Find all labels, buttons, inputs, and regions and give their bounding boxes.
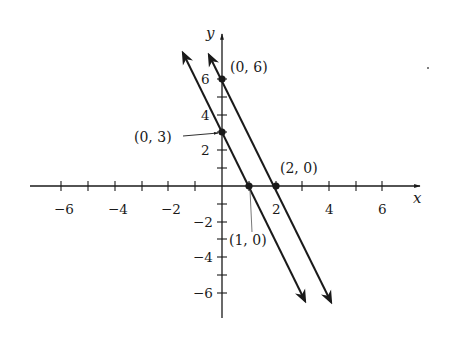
leader-arrow-0-3 bbox=[183, 133, 218, 136]
x-tick-label: 2 bbox=[272, 201, 281, 217]
y-tick-label: −4 bbox=[193, 249, 213, 265]
coordinate-plot: −6 −4 −2 2 4 6 x 6 4 2 −2 −4 −6 y bbox=[0, 0, 449, 340]
line-y-eq-neg3x-plus-6 bbox=[209, 55, 331, 302]
leader-line-1-0 bbox=[250, 190, 252, 232]
y-axis-label: y bbox=[205, 24, 215, 42]
point-label-1-0: (1, 0) bbox=[229, 232, 267, 248]
x-axis: −6 −4 −2 2 4 6 x bbox=[30, 181, 422, 217]
point-label-0-3: (0, 3) bbox=[134, 129, 172, 145]
speck-mark bbox=[427, 67, 429, 69]
point-label-0-6: (0, 6) bbox=[230, 59, 268, 75]
point-label-2-0: (2, 0) bbox=[280, 160, 318, 176]
x-tick-label: −4 bbox=[108, 201, 128, 217]
y-axis: 6 4 2 −2 −4 −6 y bbox=[193, 24, 227, 318]
x-axis-label: x bbox=[413, 189, 422, 207]
point-2-0 bbox=[272, 182, 279, 189]
point-1-0 bbox=[245, 182, 252, 189]
y-tick-label: −6 bbox=[193, 285, 213, 301]
y-tick-label: −2 bbox=[193, 214, 213, 230]
x-tick-label: 4 bbox=[325, 201, 334, 217]
point-0-6 bbox=[218, 75, 225, 82]
point-0-3 bbox=[218, 128, 225, 135]
y-tick-label: 2 bbox=[201, 142, 210, 158]
x-tick-label: 6 bbox=[378, 201, 387, 217]
y-tick-label: 6 bbox=[201, 71, 210, 87]
x-tick-label: −6 bbox=[54, 201, 74, 217]
y-tick-label: 4 bbox=[201, 107, 210, 123]
x-tick-label: −2 bbox=[161, 201, 181, 217]
